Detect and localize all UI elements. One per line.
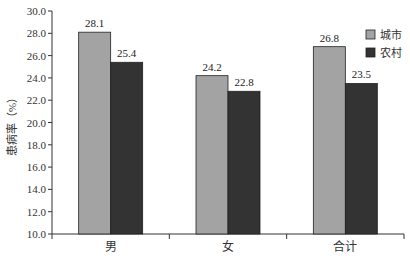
y-tick-label: 22.0 bbox=[27, 94, 47, 106]
value-label: 24.2 bbox=[202, 61, 221, 73]
x-category-label: 男 bbox=[105, 240, 117, 254]
value-label: 23.5 bbox=[352, 68, 372, 80]
y-tick-label: 24.0 bbox=[27, 72, 47, 84]
legend: 城市农村 bbox=[366, 28, 402, 59]
y-tick-label: 10.0 bbox=[27, 228, 47, 240]
bar-农村 bbox=[345, 83, 377, 234]
value-label: 28.1 bbox=[85, 17, 104, 29]
bar-城市 bbox=[196, 76, 228, 234]
bar-chart: 10.012.014.016.018.020.022.024.026.028.0… bbox=[0, 0, 410, 262]
y-axis-label: 患病率（%） bbox=[5, 92, 18, 156]
value-label: 25.4 bbox=[117, 47, 137, 59]
bars: 28.125.424.222.826.823.5 bbox=[79, 17, 378, 234]
y-tick-label: 12.0 bbox=[27, 206, 47, 218]
x-category-label: 女 bbox=[222, 239, 234, 254]
y-tick-label: 28.0 bbox=[27, 27, 47, 39]
bar-农村 bbox=[228, 91, 260, 234]
y-tick-label: 18.0 bbox=[27, 139, 47, 151]
y-tick-label: 16.0 bbox=[27, 161, 47, 173]
y-tick-label: 20.0 bbox=[27, 117, 47, 129]
x-axis: 男女合计 bbox=[52, 234, 404, 254]
y-tick-label: 14.0 bbox=[27, 183, 47, 195]
legend-label: 农村 bbox=[380, 46, 402, 59]
value-label: 22.8 bbox=[234, 76, 254, 88]
y-tick-label: 30.0 bbox=[27, 5, 47, 17]
bar-城市 bbox=[313, 47, 345, 234]
y-tick-label: 26.0 bbox=[27, 50, 47, 62]
bar-城市 bbox=[79, 32, 111, 234]
bar-农村 bbox=[111, 62, 143, 234]
value-label: 26.8 bbox=[320, 32, 340, 44]
legend-label: 城市 bbox=[380, 28, 402, 41]
legend-swatch bbox=[366, 48, 375, 57]
y-axis: 10.012.014.016.018.020.022.024.026.028.0… bbox=[27, 5, 52, 240]
x-category-label: 合计 bbox=[333, 239, 357, 254]
legend-swatch bbox=[366, 30, 375, 39]
